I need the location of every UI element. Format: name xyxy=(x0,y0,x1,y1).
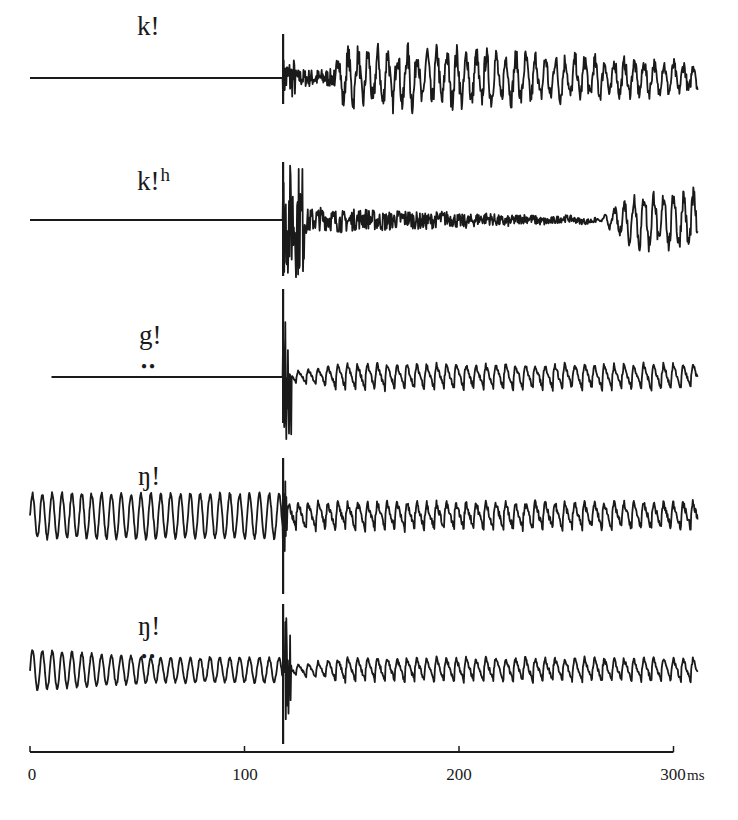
axis-unit-ms: ms xyxy=(687,767,705,784)
tick-label-200: 200 xyxy=(446,765,472,785)
waveform-trace-2 xyxy=(30,166,698,278)
waveform-trace-3 xyxy=(52,322,698,439)
time-axis xyxy=(30,746,674,752)
waveform-trace-1 xyxy=(30,43,698,113)
tick-label-100: 100 xyxy=(232,765,258,785)
tick-label-300: 300 xyxy=(660,765,686,785)
waveform-trace-4 xyxy=(30,482,698,552)
waveform-traces xyxy=(30,34,698,744)
tick-label-0: 0 xyxy=(28,765,37,785)
waveform-trace-5 xyxy=(30,618,698,719)
waveform-plot-area xyxy=(0,0,738,820)
waveform-figure: k! k!h g! ●● ŋ! ŋ! ●● 0 100 200 300 ms xyxy=(0,0,738,820)
